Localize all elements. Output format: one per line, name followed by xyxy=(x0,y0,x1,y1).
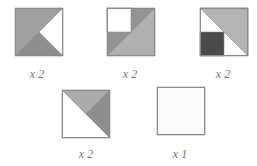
tile-4-graphic xyxy=(62,90,110,138)
tile-4 xyxy=(62,90,110,138)
tile-1 xyxy=(15,8,63,56)
tile-4-count-label: x 2 xyxy=(66,148,106,160)
tile-3-graphic xyxy=(200,8,248,56)
tile-2 xyxy=(107,8,155,56)
tile-5-patch-1 xyxy=(157,87,205,135)
tile-3 xyxy=(200,8,248,56)
tile-1-graphic xyxy=(15,8,63,56)
tile-3-patch-3 xyxy=(200,32,224,56)
tile-1-count-label: x 2 xyxy=(17,68,57,80)
tile-5-graphic xyxy=(157,87,205,135)
tile-3-count-label: x 2 xyxy=(203,68,243,80)
tile-2-graphic xyxy=(107,8,155,56)
tile-5 xyxy=(157,87,205,135)
tile-5-count-label: x 1 xyxy=(160,148,200,160)
tile-2-count-label: x 2 xyxy=(110,68,150,80)
tile-2-patch-3 xyxy=(107,8,131,32)
